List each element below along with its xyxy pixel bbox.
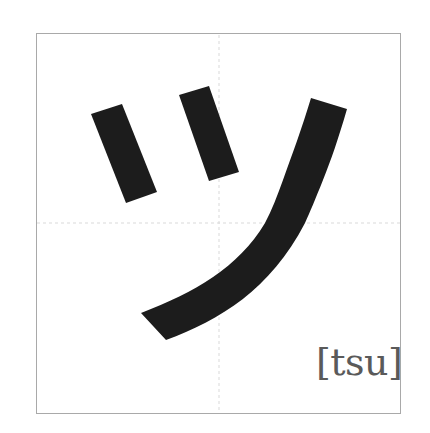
stroke-1 bbox=[91, 104, 157, 203]
romaji-label: [tsu] bbox=[316, 338, 402, 386]
stroke-3 bbox=[141, 98, 347, 340]
stroke-2 bbox=[179, 86, 239, 181]
